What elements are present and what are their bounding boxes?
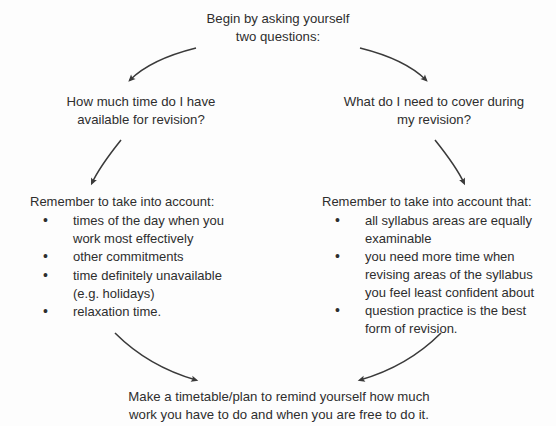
list-item: times of the day when you work most effe… <box>30 212 262 247</box>
list-item-line: form of revision. <box>365 320 556 338</box>
list-item: other commitments <box>30 248 262 266</box>
arrow-detail-right-to-conclusion <box>360 333 441 380</box>
list-item-line: relaxation time. <box>73 303 262 321</box>
detail-coverage-considerations-heading: Remember to take into account that: <box>322 193 556 211</box>
conclusion-make-timetable: Make a timetable/plan to remind yourself… <box>78 388 480 424</box>
question-coverage-line-2: my revision? <box>322 111 546 129</box>
list-item: all syllabus areas are equally examinabl… <box>322 212 556 247</box>
conclusion-line-1: Make a timetable/plan to remind yourself… <box>78 388 480 406</box>
list-item-line: times of the day when you <box>73 212 262 230</box>
list-item-line: question practice is the best <box>365 302 556 320</box>
list-item-line: time definitely unavailable <box>73 267 262 285</box>
arrow-start-to-question-right <box>360 48 426 80</box>
detail-time-considerations-heading: Remember to take into account: <box>30 193 262 211</box>
time-considerations-list: times of the day when you work most effe… <box>30 212 262 321</box>
list-item: relaxation time. <box>30 303 262 321</box>
start-prompt: Begin by asking yourself two questions: <box>178 10 378 46</box>
question-coverage: What do I need to cover during my revisi… <box>322 93 546 129</box>
coverage-considerations-list: all syllabus areas are equally examinabl… <box>322 212 556 338</box>
arrow-detail-left-to-conclusion <box>115 333 196 380</box>
question-coverage-line-1: What do I need to cover during <box>322 93 546 111</box>
arrow-question-left-to-detail-left <box>92 140 121 183</box>
list-item-line: examinable <box>365 230 556 248</box>
arrow-start-to-question-left <box>130 48 196 80</box>
list-item-line: revising areas of the syllabus <box>365 266 556 284</box>
list-item-line: you need more time when <box>365 248 556 266</box>
detail-coverage-considerations: Remember to take into account that: all … <box>322 193 556 339</box>
question-time-available-line-2: available for revision? <box>30 111 252 129</box>
arrow-question-right-to-detail-right <box>435 140 464 183</box>
list-item-line: all syllabus areas are equally <box>365 212 556 230</box>
conclusion-line-2: work you have to do and when you are fre… <box>78 406 480 424</box>
revision-planning-flow-diagram: Begin by asking yourself two questions: … <box>0 0 556 426</box>
list-item: time definitely unavailable (e.g. holida… <box>30 267 262 302</box>
question-time-available: How much time do I have available for re… <box>30 93 252 129</box>
start-prompt-line-1: Begin by asking yourself <box>178 10 378 28</box>
list-item: question practice is the best form of re… <box>322 302 556 337</box>
list-item-line: work most effectively <box>73 230 262 248</box>
list-item-line: you feel least confident about <box>365 284 556 302</box>
question-time-available-line-1: How much time do I have <box>30 93 252 111</box>
detail-time-considerations: Remember to take into account: times of … <box>30 193 262 322</box>
list-item-line: (e.g. holidays) <box>73 285 262 303</box>
list-item-line: other commitments <box>73 248 262 266</box>
list-item: you need more time when revising areas o… <box>322 248 556 301</box>
start-prompt-line-2: two questions: <box>178 28 378 46</box>
